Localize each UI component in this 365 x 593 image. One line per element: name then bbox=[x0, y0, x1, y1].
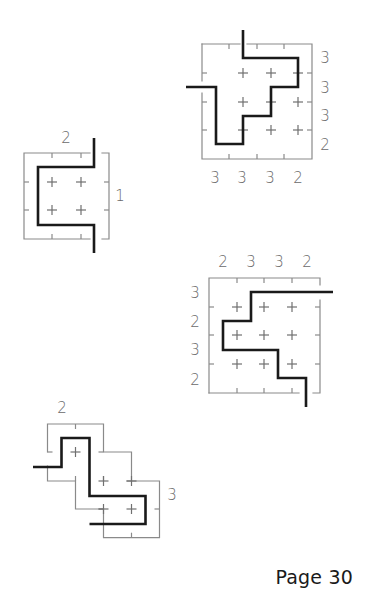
plus-icon bbox=[99, 476, 109, 486]
plus-icon bbox=[287, 359, 297, 369]
clue-number: 3 bbox=[320, 49, 330, 67]
plus-icon bbox=[266, 68, 276, 78]
clue-number: 3 bbox=[190, 284, 200, 302]
clue-number: 3 bbox=[190, 341, 200, 359]
clue-number: 3 bbox=[246, 253, 256, 271]
plus-icon bbox=[293, 97, 303, 107]
clue-number: 3 bbox=[274, 253, 284, 271]
clue-number: 2 bbox=[190, 313, 200, 331]
plus-icon bbox=[47, 177, 57, 187]
plus-icon bbox=[293, 125, 303, 135]
page-number: Page 30 bbox=[275, 566, 353, 588]
plus-icon bbox=[99, 504, 109, 514]
clue-number: 2 bbox=[320, 136, 330, 154]
clue-number: 3 bbox=[320, 107, 330, 125]
grid-border bbox=[102, 153, 109, 239]
puzzle-2: 21 bbox=[24, 129, 125, 253]
plus-icon bbox=[47, 205, 57, 215]
plus-icon bbox=[127, 504, 137, 514]
plus-icon bbox=[76, 177, 86, 187]
plus-icon bbox=[76, 205, 86, 215]
solution-path bbox=[186, 30, 298, 144]
clue-number: 2 bbox=[190, 371, 200, 389]
clue-number: 2 bbox=[61, 129, 71, 147]
plus-icon bbox=[127, 476, 137, 486]
clue-number: 2 bbox=[293, 169, 303, 187]
solution-path bbox=[38, 138, 94, 253]
puzzle-page: 33323332 21 23323232 23 bbox=[0, 0, 365, 593]
plus-icon bbox=[287, 330, 297, 340]
plus-icon bbox=[232, 330, 242, 340]
clue-number: 3 bbox=[237, 169, 247, 187]
clue-number: 1 bbox=[115, 187, 125, 205]
plus-icon bbox=[232, 302, 242, 312]
plus-icon bbox=[238, 68, 248, 78]
plus-icon bbox=[287, 302, 297, 312]
plus-icon bbox=[259, 330, 269, 340]
puzzle-1: 33323332 bbox=[186, 30, 330, 187]
clue-number: 3 bbox=[265, 169, 275, 187]
grid-border bbox=[313, 300, 320, 393]
plus-icon bbox=[238, 97, 248, 107]
plus-icon bbox=[266, 125, 276, 135]
clue-number: 2 bbox=[302, 253, 312, 271]
solution-path bbox=[223, 292, 333, 407]
clue-number: 3 bbox=[167, 486, 177, 504]
clue-number: 2 bbox=[57, 399, 67, 417]
plus-icon bbox=[259, 302, 269, 312]
plus-icon bbox=[71, 447, 81, 457]
plus-icon bbox=[232, 359, 242, 369]
clue-number: 3 bbox=[320, 79, 330, 97]
clue-number: 2 bbox=[218, 253, 228, 271]
clue-number: 3 bbox=[210, 169, 220, 187]
plus-icon bbox=[259, 359, 269, 369]
puzzle-4: 23 bbox=[33, 399, 177, 538]
puzzle-3: 23323232 bbox=[190, 253, 333, 407]
